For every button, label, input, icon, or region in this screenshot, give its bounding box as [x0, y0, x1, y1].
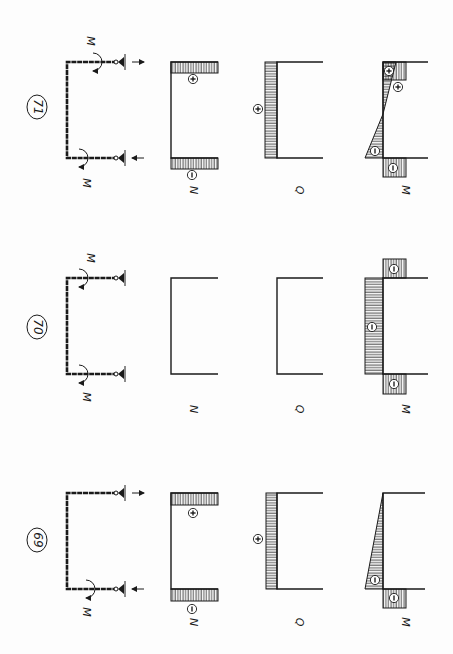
hinge [114, 60, 118, 64]
m-axis [383, 278, 428, 374]
panel-70: 70MMNQM [27, 253, 428, 414]
minus-sign-icon [389, 593, 398, 602]
n-label: N [187, 186, 200, 194]
q-label: Q [293, 186, 306, 195]
minus-sign-icon [388, 163, 397, 172]
panel-number: 69 [31, 532, 45, 547]
q-band [265, 62, 277, 158]
bending-moment-diagram: M [365, 259, 428, 414]
q-axis [277, 493, 323, 589]
n-band [171, 493, 218, 505]
normal-force-diagram: N [171, 278, 218, 413]
moment-label: M [80, 607, 93, 617]
hinge [114, 372, 118, 376]
q-label: Q [293, 618, 306, 627]
normal-force-diagram: N [171, 62, 218, 194]
n-band [171, 158, 218, 169]
q-label: Q [293, 405, 306, 414]
n-band [171, 589, 218, 601]
plus-sign-icon [188, 74, 197, 83]
support-triangle [118, 153, 124, 163]
shear-force-diagram: Q [253, 62, 323, 195]
pin-support-icon [114, 54, 144, 70]
support-triangle [118, 273, 124, 283]
pin-support-icon [114, 581, 144, 597]
plus-sign-icon [253, 104, 262, 113]
minus-sign-icon [389, 379, 398, 388]
q-axis [277, 278, 323, 374]
m-triangle-neg [365, 493, 383, 589]
q-axis [277, 62, 323, 158]
shear-force-diagram: Q [277, 278, 323, 414]
hinge [114, 276, 118, 280]
hinge [114, 491, 118, 495]
hinge [114, 156, 118, 160]
frame-beam [67, 62, 117, 158]
m-label: M [399, 617, 412, 627]
pin-support-icon [114, 366, 125, 382]
plus-sign-icon [253, 534, 262, 543]
n-axis [171, 493, 218, 589]
plus-sign-icon [384, 66, 393, 75]
minus-sign-icon [370, 575, 379, 584]
moment-label: M [80, 178, 93, 188]
loaded-frame: M [67, 485, 144, 617]
minus-sign-icon [389, 264, 398, 273]
support-triangle [118, 584, 124, 594]
normal-force-diagram: N [171, 493, 218, 626]
minus-sign-icon [187, 604, 196, 613]
pin-support-icon [114, 270, 125, 286]
q-band [266, 493, 277, 589]
frame-diagrams-canvas: 71MMNQM70MMNQM69MNQM [0, 0, 453, 654]
panel-number: 70 [31, 319, 45, 335]
n-band [171, 62, 218, 73]
frame-beam [67, 493, 117, 589]
moment-label: M [84, 36, 97, 46]
loaded-frame: MM [67, 253, 125, 402]
panel-71: 71MMNQM [27, 36, 428, 195]
pin-support-icon [114, 150, 144, 166]
panel-69: 69MNQM [27, 485, 425, 627]
support-triangle [118, 57, 124, 67]
bending-moment-diagram: M [365, 62, 428, 195]
plus-sign-icon [188, 508, 197, 517]
moment-label: M [80, 392, 93, 402]
loaded-frame: MM [67, 36, 144, 188]
hinge [114, 587, 118, 591]
support-triangle [118, 369, 124, 379]
m-axis [383, 493, 425, 589]
shear-force-diagram: Q [253, 493, 323, 627]
pin-support-icon [114, 485, 144, 501]
minus-sign-icon [187, 170, 196, 179]
n-label: N [187, 618, 200, 626]
m-label: M [399, 185, 412, 195]
n-label: N [187, 405, 200, 413]
frame-beam [67, 278, 117, 374]
textbook-page-diagrams: 71MMNQM70MMNQM69MNQM [0, 0, 453, 654]
bending-moment-diagram: M [365, 493, 425, 627]
support-triangle [118, 488, 124, 498]
moment-label: M [84, 253, 97, 263]
minus-sign-icon [367, 322, 376, 331]
plus-sign-icon [393, 82, 402, 91]
minus-sign-icon [370, 146, 379, 155]
panel-number: 71 [31, 99, 45, 114]
n-axis [171, 278, 218, 374]
m-label: M [399, 404, 412, 414]
